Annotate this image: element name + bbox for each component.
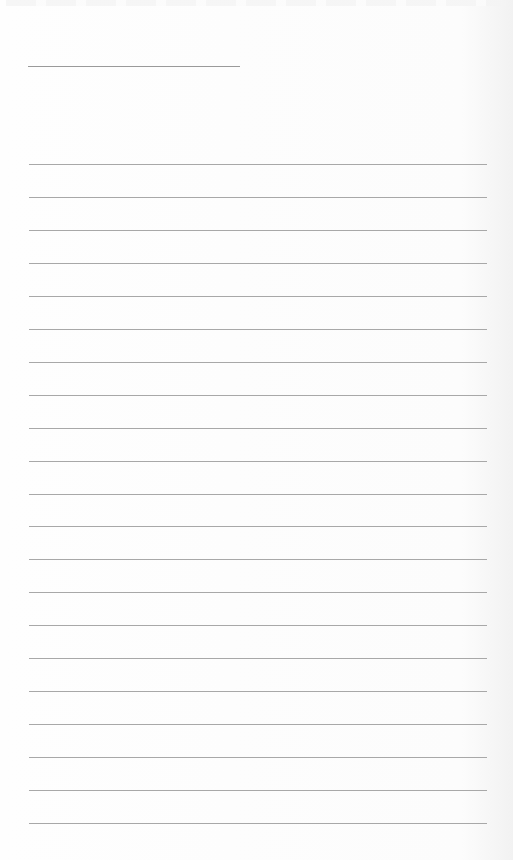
ruled-line — [29, 691, 487, 692]
ruled-line — [29, 526, 487, 527]
ruled-line — [29, 823, 487, 824]
ruled-line — [29, 592, 487, 593]
ruled-line — [29, 494, 487, 495]
ruled-line — [29, 164, 487, 165]
ruled-line — [29, 428, 487, 429]
ruled-line — [29, 658, 487, 659]
ruled-line — [29, 395, 487, 396]
ruled-line — [29, 197, 487, 198]
ruled-line — [29, 230, 487, 231]
ruled-line — [29, 263, 487, 264]
title-write-line — [28, 66, 240, 67]
lined-paper-sheet — [0, 0, 513, 860]
ruled-line — [29, 625, 487, 626]
ruled-line — [29, 461, 487, 462]
ruled-line — [29, 362, 487, 363]
ruled-line — [29, 296, 487, 297]
ruled-line — [29, 559, 487, 560]
bleed-through-text — [6, 0, 506, 6]
ruled-line — [29, 790, 487, 791]
ruled-line — [29, 724, 487, 725]
ruled-line — [29, 329, 487, 330]
ruled-line — [29, 757, 487, 758]
